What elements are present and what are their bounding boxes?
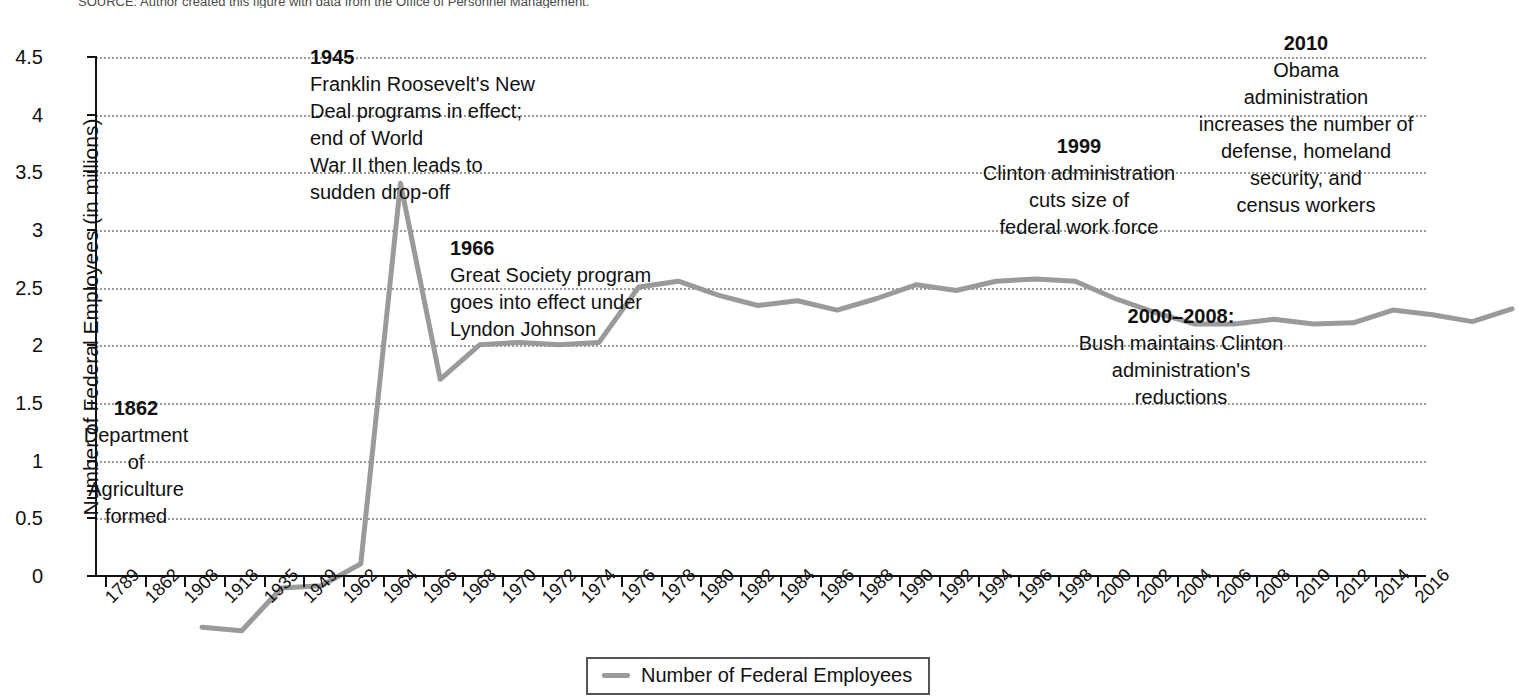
annotation-1945-line-0: Franklin Roosevelt's New xyxy=(310,73,535,95)
x-axis-tick xyxy=(264,577,266,587)
annotation-1862-line-0: Department xyxy=(84,424,189,446)
annotation-1966-line-0: Great Society program xyxy=(450,264,651,286)
x-axis-tick xyxy=(542,577,544,587)
annotation-2000-2008-line-1: administration's xyxy=(1112,359,1250,381)
annotation-2010-line-4: security, and xyxy=(1250,167,1362,189)
annotation-2010-line-5: census workers xyxy=(1237,194,1376,216)
annotation-1999-year: 1999 xyxy=(960,133,1198,160)
annotation-1999: 1999 Clinton administration cuts size of… xyxy=(960,133,1198,241)
y-axis-tick-label: 4.5 xyxy=(0,47,43,67)
y-axis-tick-label: 2 xyxy=(0,335,43,355)
annotation-2000-2008: 2000–2008: Bush maintains Clinton admini… xyxy=(1056,303,1306,411)
annotation-1945: 1945 Franklin Roosevelt's New Deal progr… xyxy=(310,44,610,206)
legend-line-swatch xyxy=(602,673,630,678)
annotation-1945-line-3: War II then leads to xyxy=(310,154,483,176)
annotation-2010-line-0: Obama xyxy=(1273,59,1339,81)
y-axis-tick-label: 1.5 xyxy=(0,393,43,413)
annotation-2010-line-2: increases the number of xyxy=(1199,113,1414,135)
annotation-1966-line-2: Lyndon Johnson xyxy=(450,318,596,340)
annotation-2010-line-1: administration xyxy=(1244,86,1369,108)
y-axis-tick-label: 2.5 xyxy=(0,278,43,298)
x-axis-tick xyxy=(1058,577,1060,587)
x-axis-tick xyxy=(1336,577,1338,587)
annotation-1966-year: 1966 xyxy=(450,235,750,262)
annotation-1966: 1966 Great Society program goes into eff… xyxy=(450,235,750,343)
annotation-1862: 1862 Department of Agriculture formed xyxy=(62,395,210,530)
annotation-2000-2008-line-0: Bush maintains Clinton xyxy=(1079,332,1284,354)
y-axis-tick-label: 3.5 xyxy=(0,162,43,182)
annotation-1945-year: 1945 xyxy=(310,44,610,71)
x-axis-tick xyxy=(820,577,822,587)
annotation-2000-2008-line-2: reductions xyxy=(1135,386,1227,408)
annotation-1862-line-3: formed xyxy=(105,505,167,527)
annotation-1999-line-2: federal work force xyxy=(1000,216,1159,238)
y-axis-tick-label: 4 xyxy=(0,105,43,125)
x-axis-tick xyxy=(1217,577,1219,587)
annotation-1862-year: 1862 xyxy=(62,395,210,422)
x-axis-tick xyxy=(423,577,425,587)
x-axis-tick xyxy=(661,577,663,587)
annotation-2010-line-3: defense, homeland xyxy=(1221,140,1391,162)
chart-legend: Number of Federal Employees xyxy=(586,657,930,695)
annotation-1945-line-1: Deal programs in effect; xyxy=(310,100,522,122)
x-axis-tick xyxy=(1177,577,1179,587)
annotation-2010: 2010 Obama administration increases the … xyxy=(1178,30,1434,219)
annotation-1862-line-2: Agriculture xyxy=(88,478,184,500)
y-axis-tick-label: 0 xyxy=(0,566,43,586)
series-line-number-of-federal-employees xyxy=(202,183,1512,631)
annotation-1945-line-2: end of World xyxy=(310,127,423,149)
x-axis-tick xyxy=(145,577,147,587)
annotation-1999-line-1: cuts size of xyxy=(1029,189,1129,211)
x-axis-tick xyxy=(939,577,941,587)
y-axis-tick-label: 0.5 xyxy=(0,508,43,528)
annotation-1999-line-0: Clinton administration xyxy=(983,162,1175,184)
annotation-1862-line-1: of xyxy=(128,451,145,473)
annotation-1966-line-1: goes into effect under xyxy=(450,291,642,313)
annotation-1945-line-4: sudden drop-off xyxy=(310,181,450,203)
annotation-2010-year: 2010 xyxy=(1178,30,1434,57)
annotation-2000-2008-year: 2000–2008: xyxy=(1056,303,1306,330)
y-axis-tick-label: 1 xyxy=(0,451,43,471)
y-axis-tick-label: 3 xyxy=(0,220,43,240)
legend-label: Number of Federal Employees xyxy=(641,664,912,687)
